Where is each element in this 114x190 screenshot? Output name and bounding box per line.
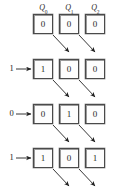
cell-r4-q2: 1 (85, 148, 105, 168)
shift-arrow-r3-q1-q2 (79, 125, 95, 142)
cell-r1-q1: 0 (59, 14, 79, 34)
shift-arrow-r2-q0-q1 (53, 80, 69, 97)
shift-arrow-r2-q1-q2 (79, 80, 95, 97)
cell-r3-q1: 1 (59, 104, 79, 124)
cell-r1-q2: 0 (85, 14, 105, 34)
shift-arrow-r3-q0-q1 (53, 125, 69, 142)
cell-r4-q1: 0 (59, 148, 79, 168)
cell-r1-q0: 0 (33, 14, 53, 34)
shift-arrow-r4-q1-out (79, 169, 95, 186)
shift-arrow-r4-q0-out (53, 169, 69, 186)
input-label-row-4: 1 (7, 153, 16, 162)
cell-r2-q2: 0 (85, 59, 105, 79)
input-label-row-3: 0 (7, 109, 16, 118)
cell-r3-q2: 0 (85, 104, 105, 124)
cell-r3-q0: 0 (33, 104, 53, 124)
cell-r2-q1: 0 (59, 59, 79, 79)
input-label-row-2: 1 (7, 64, 16, 73)
shift-register-diagram: Q0 Q1 Q2 0 0 0 1 1 0 0 0 0 1 0 1 1 0 1 (0, 0, 114, 190)
cell-r4-q0: 1 (33, 148, 53, 168)
cell-r2-q0: 1 (33, 59, 53, 79)
shift-arrow-r1-q0-q1 (53, 35, 69, 52)
shift-arrow-r1-q1-q2 (79, 35, 95, 52)
